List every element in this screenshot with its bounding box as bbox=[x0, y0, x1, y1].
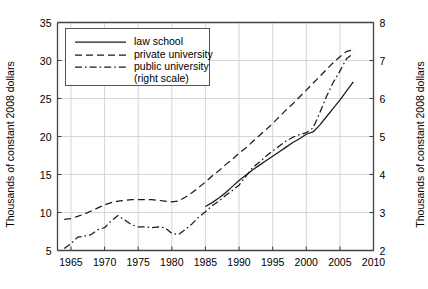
legend-label-0: law school bbox=[134, 35, 183, 47]
x-axis-tick-label: 1985 bbox=[194, 256, 217, 268]
x-axis-tick-label: 1965 bbox=[59, 256, 82, 268]
chart-container: Thousands of constant 2008 dollars Thous… bbox=[0, 0, 428, 289]
legend-label-2-line2: (right scale) bbox=[134, 72, 189, 84]
y-axis-right-tick-label: 3 bbox=[380, 207, 386, 219]
x-axis-tick-label: 2005 bbox=[328, 256, 351, 268]
y-axis-right-tick-label: 4 bbox=[380, 169, 386, 181]
y-axis-right-tick-label: 7 bbox=[380, 55, 386, 67]
y-axis-right-tick-label: 8 bbox=[380, 17, 386, 29]
chart-legend: law schoolprivate universitypublic unive… bbox=[65, 28, 210, 86]
y-axis-right-tick-label: 6 bbox=[380, 93, 386, 105]
y-axis-left-tick-label: 10 bbox=[40, 207, 52, 219]
y-axis-left-tick-label: 5 bbox=[46, 245, 52, 257]
y-axis-left-tick-label: 30 bbox=[40, 55, 52, 67]
y-axis-left-tick-label: 25 bbox=[40, 93, 52, 105]
x-axis-tick-label: 1980 bbox=[160, 256, 183, 268]
x-axis-tick-label: 1975 bbox=[126, 256, 149, 268]
y-axis-left-tick-label: 35 bbox=[40, 17, 52, 29]
x-axis-tick-label: 1995 bbox=[261, 256, 284, 268]
x-axis-tick-label: 1990 bbox=[227, 256, 250, 268]
series-line-law-school bbox=[205, 82, 353, 207]
x-axis-tick-label: 1970 bbox=[93, 256, 116, 268]
x-axis-tick-label: 2000 bbox=[295, 256, 318, 268]
legend-label-2: public university bbox=[134, 60, 209, 72]
y-axis-right-tick-label: 2 bbox=[380, 245, 386, 257]
legend-label-1: private university bbox=[134, 48, 213, 60]
y-axis-right-tick-label: 5 bbox=[380, 131, 386, 143]
y-axis-left-tick-label: 20 bbox=[40, 131, 52, 143]
x-axis-tick-label: 2010 bbox=[362, 256, 385, 268]
y-axis-left-tick-label: 15 bbox=[40, 169, 52, 181]
